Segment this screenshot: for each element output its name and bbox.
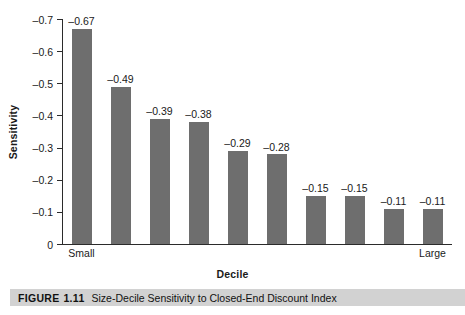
x-axis-line bbox=[62, 244, 452, 245]
bar[interactable] bbox=[189, 122, 209, 244]
y-axis-line bbox=[62, 19, 63, 244]
y-tick-label: –0.5 bbox=[33, 79, 53, 90]
y-tick-label: –0.3 bbox=[33, 143, 53, 154]
bar-value-label: –0.15 bbox=[302, 183, 328, 194]
bar[interactable] bbox=[306, 196, 326, 244]
bar-group[interactable]: –0.11 bbox=[384, 209, 404, 244]
bar-value-label: –0.67 bbox=[68, 16, 94, 27]
bar-group[interactable]: –0.67 bbox=[72, 29, 92, 244]
bar-value-label: –0.15 bbox=[341, 183, 367, 194]
figure-container: Sensitivity –0.7–0.6–0.5–0.4–0.3–0.2–0.1… bbox=[0, 0, 465, 315]
bar[interactable] bbox=[345, 196, 365, 244]
bar-value-label: –0.38 bbox=[185, 109, 211, 120]
y-tick: –0.7 bbox=[57, 19, 62, 20]
bar[interactable] bbox=[150, 119, 170, 244]
bar-group[interactable]: –0.11 bbox=[423, 209, 443, 244]
y-tick-label: –0.6 bbox=[33, 46, 53, 57]
bar-group[interactable]: –0.29 bbox=[228, 151, 248, 244]
bar[interactable] bbox=[111, 87, 131, 245]
bar[interactable] bbox=[228, 151, 248, 244]
y-tick: –0.1 bbox=[57, 212, 62, 213]
bar[interactable] bbox=[423, 209, 443, 244]
bar-group[interactable]: –0.39 bbox=[150, 119, 170, 244]
bar-group[interactable]: –0.49 bbox=[111, 87, 131, 245]
caption-text: Size-Decile Sensitivity to Closed-End Di… bbox=[92, 292, 337, 304]
bar-group[interactable]: –0.15 bbox=[306, 196, 326, 244]
bar[interactable] bbox=[72, 29, 92, 244]
bar-value-label: –0.39 bbox=[146, 106, 172, 117]
bar-group[interactable]: –0.15 bbox=[345, 196, 365, 244]
bar-value-label: –0.11 bbox=[420, 196, 446, 207]
bar-group[interactable]: –0.28 bbox=[267, 154, 287, 244]
bar-value-label: –0.28 bbox=[263, 142, 289, 153]
y-tick-label: 0 bbox=[47, 239, 53, 250]
y-tick: 0 bbox=[57, 244, 62, 245]
bar-value-label: –0.11 bbox=[381, 196, 407, 207]
y-tick-label: –0.4 bbox=[33, 111, 53, 122]
x-label-large: Large bbox=[419, 248, 446, 259]
bar-value-label: –0.29 bbox=[224, 138, 250, 149]
bar[interactable] bbox=[384, 209, 404, 244]
y-tick-label: –0.1 bbox=[33, 207, 53, 218]
caption-figure-label: FIGURE bbox=[18, 292, 59, 304]
x-label-small: Small bbox=[68, 248, 94, 259]
y-axis-title: Sensitivity bbox=[6, 19, 20, 244]
y-tick-label: –0.7 bbox=[33, 14, 53, 25]
y-axis-title-label: Sensitivity bbox=[7, 104, 19, 159]
figure-caption-band: FIGURE 1.11 Size-Decile Sensitivity to C… bbox=[10, 289, 465, 306]
bar-value-label: –0.49 bbox=[107, 74, 133, 85]
bar[interactable] bbox=[267, 154, 287, 244]
y-tick-label: –0.2 bbox=[33, 175, 53, 186]
plot-area: –0.7–0.6–0.5–0.4–0.3–0.2–0.10 –0.67–0.49… bbox=[62, 19, 452, 244]
x-axis-title: Decile bbox=[0, 268, 465, 280]
y-tick: –0.2 bbox=[57, 180, 62, 181]
y-tick: –0.4 bbox=[57, 115, 62, 116]
bar-group[interactable]: –0.38 bbox=[189, 122, 209, 244]
y-tick: –0.6 bbox=[57, 51, 62, 52]
y-tick: –0.3 bbox=[57, 148, 62, 149]
caption-figure-number: 1.11 bbox=[63, 292, 84, 304]
y-tick: –0.5 bbox=[57, 83, 62, 84]
